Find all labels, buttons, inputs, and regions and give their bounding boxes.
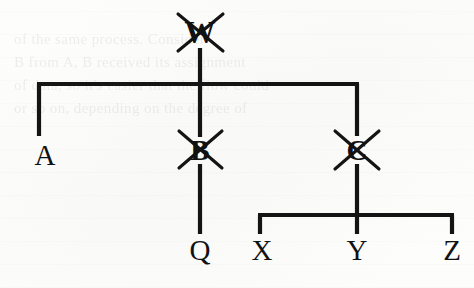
node-label-x[interactable]: X [252, 236, 273, 265]
node-label-a[interactable]: A [35, 141, 56, 170]
node-label-c[interactable]: C [347, 136, 368, 165]
node-label-y[interactable]: Y [347, 236, 368, 265]
node-label-w[interactable]: W [185, 17, 216, 48]
tree-graph [0, 0, 474, 288]
node-label-q[interactable]: Q [190, 236, 211, 265]
node-label-z[interactable]: Z [443, 236, 461, 265]
edge-lines [37, 48, 454, 234]
scanned-diagram-page: of the same process. Consider B from A, … [0, 0, 474, 288]
node-label-b[interactable]: B [190, 136, 209, 165]
